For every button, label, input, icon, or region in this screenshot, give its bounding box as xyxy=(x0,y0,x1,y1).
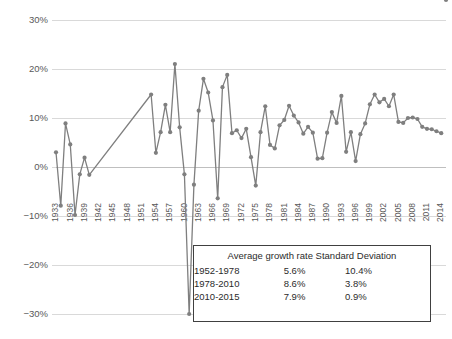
legend-table-row: 1978-20108.6%3.8% xyxy=(194,277,430,290)
data-point-marker xyxy=(173,62,177,66)
legend-table-row: 1952-19785.6%10.4% xyxy=(194,264,430,277)
x-axis-tick-label: 2005 xyxy=(393,203,403,222)
data-point-marker xyxy=(54,150,58,154)
x-axis-tick-label: 1957 xyxy=(164,203,174,222)
x-axis-tick-label: 1936 xyxy=(65,203,75,222)
data-point-marker xyxy=(301,132,305,136)
data-point-marker xyxy=(201,77,205,81)
x-axis-tick-label: 1948 xyxy=(122,203,132,222)
data-point-marker xyxy=(387,104,391,108)
data-point-marker xyxy=(396,120,400,124)
legend-stdev-cell: 3.8% xyxy=(345,277,430,290)
data-point-marker xyxy=(430,127,434,131)
data-point-marker xyxy=(344,150,348,154)
data-point-marker xyxy=(392,92,396,96)
data-point-marker xyxy=(178,125,182,129)
x-axis-tick-label: 1984 xyxy=(293,203,303,222)
data-point-marker xyxy=(258,130,262,134)
y-axis-tick-label: −10% xyxy=(23,210,48,221)
data-point-marker xyxy=(225,73,229,77)
data-point-marker xyxy=(163,103,167,107)
data-point-marker xyxy=(87,173,91,177)
legend-table: 1952-19785.6%10.4%1978-20108.6%3.8%2010-… xyxy=(194,264,430,303)
data-point-marker xyxy=(59,204,63,208)
data-point-marker xyxy=(439,131,443,135)
y-axis-tick-label: 10% xyxy=(29,112,49,123)
y-axis-tick-label: 20% xyxy=(29,63,49,74)
data-point-marker xyxy=(78,172,82,176)
data-point-marker xyxy=(239,136,243,140)
data-point-marker xyxy=(68,142,72,146)
data-point-marker xyxy=(244,127,248,131)
data-point-marker xyxy=(249,155,253,159)
data-point-marker xyxy=(82,156,86,160)
data-point-marker xyxy=(182,172,186,176)
data-point-marker xyxy=(216,196,220,200)
data-point-marker xyxy=(335,121,339,125)
data-point-marker xyxy=(406,116,410,120)
data-point-marker xyxy=(420,125,424,129)
data-point-marker xyxy=(197,109,201,113)
x-axis-tick-label: 1942 xyxy=(93,203,103,222)
data-point-marker xyxy=(325,131,329,135)
data-point-marker xyxy=(187,312,191,316)
data-point-marker xyxy=(192,183,196,187)
data-point-marker xyxy=(296,120,300,124)
legend-average-cell: 7.9% xyxy=(284,290,345,303)
data-point-marker xyxy=(330,110,334,114)
legend-stdev-cell: 10.4% xyxy=(345,264,430,277)
data-point-marker xyxy=(425,127,429,131)
data-point-marker xyxy=(282,118,286,122)
x-axis-tick-label: 1999 xyxy=(364,203,374,222)
data-point-marker xyxy=(220,85,224,89)
data-point-marker xyxy=(382,97,386,101)
data-point-marker xyxy=(434,129,438,133)
legend-period-cell: 2010-2015 xyxy=(194,290,284,303)
x-axis-tick-label: 1990 xyxy=(321,203,331,222)
x-axis-tick-label: 1969 xyxy=(221,203,231,222)
x-axis-tick-label: 1945 xyxy=(107,203,117,222)
data-point-marker xyxy=(268,143,272,147)
data-point-marker xyxy=(415,117,419,121)
data-point-marker xyxy=(230,131,234,135)
x-axis-tick-label: 1963 xyxy=(193,203,203,222)
data-point-marker xyxy=(159,130,163,134)
data-point-marker xyxy=(349,130,353,134)
y-axis-tick-label: 30% xyxy=(29,14,49,25)
x-axis-tick-label: 1939 xyxy=(79,203,89,222)
x-axis-tick-label: 1972 xyxy=(236,203,246,222)
data-point-marker xyxy=(368,102,372,106)
x-axis-tick-label: 2014 xyxy=(435,203,445,222)
data-point-marker xyxy=(373,92,377,96)
legend-period-cell: 1952-1978 xyxy=(194,264,284,277)
data-point-marker xyxy=(377,100,381,104)
data-point-marker xyxy=(287,104,291,108)
y-axis-tick-label: −20% xyxy=(23,259,48,270)
legend-title: Average growth rate Standard Deviation xyxy=(194,246,430,264)
data-point-marker xyxy=(63,121,67,125)
data-point-marker xyxy=(168,130,172,134)
legend-average-cell: 8.6% xyxy=(284,277,345,290)
data-point-marker xyxy=(311,131,315,135)
data-point-marker xyxy=(339,94,343,98)
data-point-marker xyxy=(277,123,281,127)
x-axis-tick-label: 2002 xyxy=(378,203,388,222)
data-point-marker xyxy=(320,156,324,160)
data-point-marker xyxy=(211,118,215,122)
data-point-marker xyxy=(235,128,239,132)
data-point-marker xyxy=(358,132,362,136)
data-point-marker xyxy=(411,115,415,119)
data-point-marker xyxy=(363,121,367,125)
data-point-marker xyxy=(306,125,310,129)
data-point-marker xyxy=(354,159,358,163)
x-axis-tick-label: 1951 xyxy=(136,203,146,222)
data-point-marker xyxy=(149,92,153,96)
data-point-marker xyxy=(444,0,448,2)
legend-table-row: 2010-20157.9%0.9% xyxy=(194,290,430,303)
data-point-marker xyxy=(273,146,277,150)
data-point-marker xyxy=(263,104,267,108)
x-axis-tick-label: 2011 xyxy=(421,203,431,222)
x-axis-tick-label: 1978 xyxy=(264,203,274,222)
annotation-legend-box: Average growth rate Standard Deviation 1… xyxy=(193,245,431,322)
x-axis-tick-label: 1960 xyxy=(179,203,189,222)
